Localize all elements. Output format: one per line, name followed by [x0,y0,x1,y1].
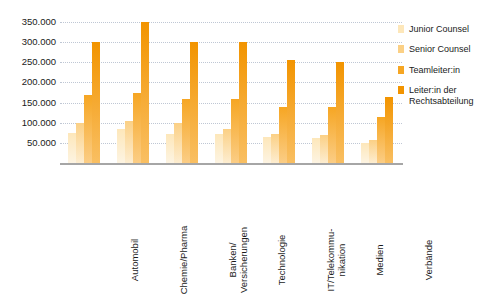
bar [263,137,271,163]
y-axis-tick-label: 350.000 [0,17,56,27]
bar [369,140,377,163]
bar-group [361,22,394,163]
bar-group [166,22,199,163]
y-axis-tick-label: 300.000 [0,37,56,47]
bar [271,134,279,163]
x-axis-tick-label: Chemie/Pharma [179,214,190,298]
legend-item: Leiter:in der Rechtsabteilung [398,85,493,108]
bar [125,121,133,163]
bar-group [117,22,150,163]
bar [92,42,100,163]
bar [361,143,369,163]
bar [377,117,385,163]
bar [328,107,336,163]
legend-item: Teamleiter:in [398,65,493,76]
legend-item-label: Junior Counsel [409,24,469,35]
x-axis-tick-label: Technologie [277,214,288,298]
bar-group [215,22,248,163]
legend-swatch-icon [398,45,404,53]
bar [279,107,287,163]
y-axis-tick-label: 50.000 [0,138,56,148]
bar-group [68,22,101,163]
legend-item-label: Teamleiter:in [409,65,460,76]
y-axis-tick-label: 150.000 [0,98,56,108]
bar [239,42,247,163]
bar [231,99,239,163]
bar [166,134,174,163]
x-axis-tick-label: Medien [375,214,386,298]
legend-item-label: Leiter:in der Rechtsabteilung [409,85,474,108]
y-axis-tick-label: 100.000 [0,118,56,128]
bar [84,95,92,163]
x-axis-tick-label: IT/Telekommu- nikation [326,214,347,298]
bar [320,135,328,163]
bar [117,129,125,163]
bar [76,123,84,163]
bar [223,129,231,163]
bar [215,134,223,163]
bar [133,93,141,164]
bar [174,123,182,163]
bar [141,22,149,163]
chart-legend: Junior CounselSenior CounselTeamleiter:i… [398,24,493,116]
bar [68,133,76,163]
plot-area [60,22,402,163]
bar [287,60,295,163]
x-axis-tick-label: Verbände [424,214,435,298]
legend-item: Senior Counsel [398,44,493,55]
bar-group [263,22,296,163]
legend-item: Junior Counsel [398,24,493,35]
legend-swatch-icon [398,25,404,33]
legend-swatch-icon [398,86,404,94]
legend-item-label: Senior Counsel [409,44,471,55]
bar [190,42,198,163]
y-axis-tick-label: 250.000 [0,58,56,68]
bar [312,138,320,163]
y-axis-tick-label: 200.000 [0,78,56,88]
legend-swatch-icon [398,66,404,74]
x-axis-line [60,163,403,165]
bar [385,97,393,163]
x-axis-tick-label: Automobil [130,214,141,298]
bar [336,62,344,163]
x-axis: AutomobilChemie/PharmaBanken/ Versicheru… [60,166,402,261]
x-axis-tick-label: Banken/ Versicherungen [228,214,249,298]
bar-group [312,22,345,163]
y-axis: 350.000300.000250.000200.000150.000100.0… [0,22,56,163]
bar [182,99,190,163]
